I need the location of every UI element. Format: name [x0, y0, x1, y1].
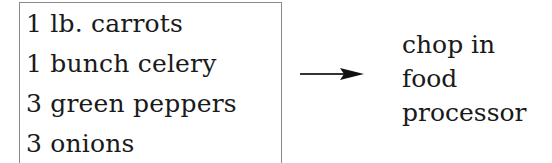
ingredient-item: 1 lb. carrots [26, 4, 237, 44]
instruction-line: chop in [402, 28, 526, 62]
instruction-line: food [402, 62, 526, 96]
right-arrow-icon [300, 66, 364, 82]
ingredient-list: 1 lb. carrots 1 bunch celery 3 green pep… [26, 4, 237, 163]
ingredient-item: 1 bunch celery [26, 44, 237, 84]
ingredient-item: 3 green peppers [26, 84, 237, 124]
ingredient-item: 3 onions [26, 124, 237, 163]
instruction-text: chop in food processor [402, 28, 526, 130]
instruction-line: processor [402, 96, 526, 130]
